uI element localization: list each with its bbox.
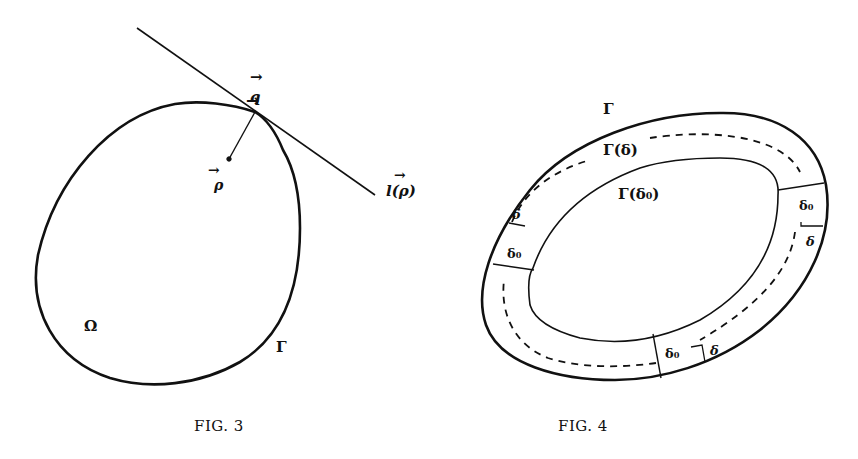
- label-gamma-delta0: Γ(δ₀): [618, 187, 659, 202]
- arrow-q: →: [250, 68, 263, 86]
- normal-segment: [229, 112, 255, 159]
- label-gamma-fig3: Γ: [276, 340, 287, 355]
- radial-segment-left: [493, 264, 534, 270]
- label-omega: Ω: [84, 319, 97, 334]
- figure-4-drawing: [482, 113, 827, 380]
- label-delta0-bottom: δ₀: [665, 347, 679, 360]
- dashed-boundary-gamma-delta: [503, 134, 800, 366]
- label-rho: ρ: [214, 178, 223, 192]
- q-arrow-label: →: [250, 70, 263, 85]
- rho-arrow: →: [208, 163, 220, 177]
- radial-segment-bottom: [653, 334, 661, 378]
- label-l-rho: l(ρ): [386, 184, 416, 199]
- label-gamma-delta: Γ(δ): [603, 143, 638, 158]
- label-delta-right: δ: [806, 235, 815, 248]
- label-delta-left: δ: [512, 208, 521, 221]
- label-gamma-fig4: Γ: [603, 102, 614, 117]
- label-delta0-right: δ₀: [799, 199, 813, 212]
- delta-tick-bottom: [691, 345, 705, 362]
- rho-point: [227, 157, 231, 161]
- caption-fig3: FIG. 3: [194, 419, 244, 434]
- label-delta0-left: δ₀: [507, 247, 521, 260]
- delta-tick-right: [801, 222, 823, 226]
- radial-segment-right: [778, 183, 824, 190]
- outer-boundary-gamma: [482, 113, 827, 380]
- figures-canvas: [0, 0, 858, 459]
- domain-boundary-gamma: [36, 102, 300, 384]
- delta-tick-left: [509, 223, 525, 226]
- caption-fig4: FIG. 4: [558, 419, 608, 434]
- l-rho-arrow: →: [394, 168, 406, 182]
- label-q: q: [250, 90, 261, 105]
- label-delta-bottom: δ: [710, 344, 719, 357]
